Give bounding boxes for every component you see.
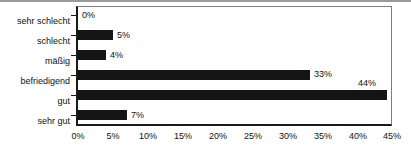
bar-value-sehr-schlecht: 0% [82,10,95,21]
bars-group: 0% 5% 4% 33% 44% 7% [78,7,391,124]
bar-value-sehr-gut: 7% [131,110,144,121]
bar-value-maessig: 4% [110,50,123,61]
bar-sehr-gut[interactable] [78,110,127,120]
x-tick-label-30: 30% [279,130,297,142]
x-tick-label-20: 20% [209,130,227,142]
x-tick-label-25: 25% [244,130,262,142]
bar-gut[interactable] [78,90,387,100]
plot-area: 0% 5% 4% 33% 44% 7% [76,6,392,126]
x-tick-label-0: 0% [71,130,84,142]
bar-maessig[interactable] [78,50,106,60]
category-label-gut: gut [57,95,70,107]
bar-schlecht[interactable] [78,30,113,40]
top-divider [0,0,411,2]
bar-value-gut: 44% [358,78,376,89]
x-tick-label-10: 10% [139,130,157,142]
x-axis-labels: 0% 5% 10% 15% 20% 25% 30% 35% 40% 45% [0,128,411,144]
x-tick-label-45: 45% [383,130,401,142]
x-tick-label-40: 40% [349,130,367,142]
category-label-sehr-gut: sehr gut [37,115,70,127]
x-tick-label-5: 5% [106,130,119,142]
x-tick-label-15: 15% [174,130,192,142]
category-label-maessig: mäßig [45,55,70,67]
bar-value-schlecht: 5% [117,30,130,41]
category-label-sehr-schlecht: sehr schlecht [17,15,70,27]
category-label-befriedigend: befriedigend [20,75,70,87]
bar-befriedigend[interactable] [78,70,310,80]
x-tick-label-35: 35% [314,130,332,142]
bar-value-befriedigend: 33% [314,69,332,80]
category-label-schlecht: schlecht [37,35,70,47]
category-axis-labels: sehr schlecht schlecht mäßig befriedigen… [0,6,73,126]
bar-chart: sehr schlecht schlecht mäßig befriedigen… [0,0,411,148]
